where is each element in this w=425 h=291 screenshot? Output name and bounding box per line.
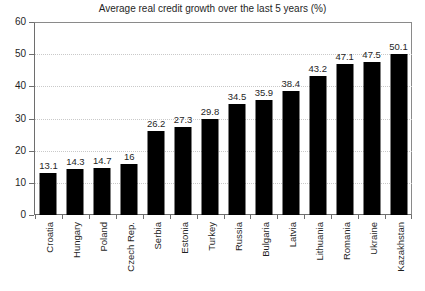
chart-title: Average real credit growth over the last… — [0, 3, 425, 15]
x-axis-tick-mark — [62, 215, 63, 219]
y-axis-tick-mark — [29, 215, 34, 216]
bars-layer: 13.114.314.71626.227.329.834.535.938.443… — [35, 22, 412, 215]
y-axis-tick-label: 40 — [15, 81, 26, 91]
x-axis-tick-mark — [89, 215, 90, 219]
y-axis-tick-label: 10 — [15, 178, 26, 188]
bar-value-label: 38.4 — [282, 78, 301, 89]
bar-value-label: 35.9 — [255, 87, 274, 98]
y-axis-tick-label: 50 — [15, 49, 26, 59]
x-axis-category-text: Poland — [98, 222, 109, 252]
bar-value-label: 34.5 — [228, 91, 247, 102]
x-axis-tick-mark — [358, 215, 359, 219]
y-axis-tick-mark — [29, 119, 34, 120]
bar-group[interactable]: 47.1 — [331, 22, 358, 215]
bar-value-label: 43.2 — [308, 63, 327, 74]
x-axis-tick-mark — [143, 215, 144, 219]
bar[interactable] — [94, 168, 111, 215]
bar[interactable] — [148, 131, 165, 215]
bar-group[interactable]: 14.3 — [62, 22, 89, 215]
y-axis-tick-mark — [29, 183, 34, 184]
bar-group[interactable]: 34.5 — [224, 22, 251, 215]
bar[interactable] — [309, 76, 326, 215]
x-axis-tick-mark — [197, 215, 198, 219]
bar-value-label: 47.1 — [335, 51, 354, 62]
x-axis-category-text: Bulgaria — [260, 222, 271, 257]
bar[interactable] — [175, 127, 192, 215]
x-axis-tick-mark — [304, 215, 305, 219]
x-axis-category-text: Russia — [233, 222, 244, 251]
x-axis-category-text: Ukraine — [368, 222, 379, 255]
x-axis-category-text: Croatia — [44, 222, 55, 253]
bar-group[interactable]: 47.5 — [358, 22, 385, 215]
bar-group[interactable]: 27.3 — [170, 22, 197, 215]
bar-chart: Average real credit growth over the last… — [0, 0, 425, 291]
bar-value-label: 16 — [124, 151, 135, 162]
bar-group[interactable]: 43.2 — [304, 22, 331, 215]
bar-group[interactable]: 16 — [116, 22, 143, 215]
bar[interactable] — [121, 164, 138, 215]
bar-group[interactable]: 14.7 — [89, 22, 116, 215]
bar-group[interactable]: 13.1 — [35, 22, 62, 215]
bar-value-label: 50.1 — [389, 41, 408, 52]
x-axis-tick-mark — [411, 215, 412, 219]
bar-group[interactable]: 35.9 — [250, 22, 277, 215]
bar-value-label: 27.3 — [174, 114, 193, 125]
x-axis-tick-mark — [170, 215, 171, 219]
y-axis-tick-label: 0 — [20, 210, 26, 220]
y-axis: 0102030405060 — [0, 0, 34, 291]
x-axis-category-text: Romania — [341, 222, 352, 260]
y-axis-tick-mark — [29, 22, 34, 23]
bar-group[interactable]: 50.1 — [385, 22, 412, 215]
x-axis-category-text: Serbia — [152, 222, 163, 249]
x-axis-tick-mark — [277, 215, 278, 219]
y-axis-tick-label: 30 — [15, 114, 26, 124]
bar[interactable] — [67, 169, 84, 215]
bar[interactable] — [228, 104, 245, 215]
bar-value-label: 14.3 — [66, 156, 85, 167]
y-axis-tick-mark — [29, 86, 34, 87]
bar[interactable] — [336, 64, 353, 216]
bar[interactable] — [40, 173, 57, 215]
x-axis-labels: CroatiaHungaryPolandCzech Rep.SerbiaEsto… — [35, 220, 412, 291]
bar-value-label: 13.1 — [39, 160, 58, 171]
x-axis-tick-mark — [224, 215, 225, 219]
x-axis-category-text: Hungary — [71, 222, 82, 258]
bar-group[interactable]: 38.4 — [277, 22, 304, 215]
y-axis-tick-label: 20 — [15, 146, 26, 156]
x-axis-category-text: Turkey — [206, 222, 217, 251]
x-axis-category-text: Kazakhstan — [395, 222, 406, 272]
x-axis-tick-mark — [385, 215, 386, 219]
bar-value-label: 26.2 — [147, 118, 166, 129]
bar-group[interactable]: 29.8 — [197, 22, 224, 215]
x-axis-tick-mark — [116, 215, 117, 219]
y-axis-tick-mark — [29, 151, 34, 152]
x-axis-tick-mark — [35, 215, 36, 219]
bar-group[interactable]: 26.2 — [143, 22, 170, 215]
y-axis-tick-mark — [29, 54, 34, 55]
bar-value-label: 47.5 — [362, 49, 381, 60]
bar-value-label: 29.8 — [201, 106, 220, 117]
bar[interactable] — [282, 91, 299, 215]
bar[interactable] — [390, 54, 407, 215]
y-axis-tick-label: 60 — [15, 17, 26, 27]
x-axis-tick-mark — [331, 215, 332, 219]
x-axis-category-text: Lithuania — [314, 222, 325, 261]
x-axis-category-text: Estonia — [179, 222, 190, 254]
x-axis-category-text: Latvia — [287, 222, 298, 247]
bar[interactable] — [202, 119, 219, 215]
bar-value-label: 14.7 — [93, 155, 112, 166]
x-axis-category-text: Czech Rep. — [125, 222, 136, 272]
x-axis-tick-mark — [250, 215, 251, 219]
bar[interactable] — [255, 100, 272, 215]
bar[interactable] — [363, 62, 380, 215]
